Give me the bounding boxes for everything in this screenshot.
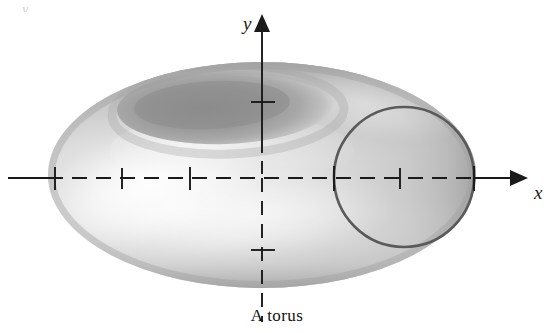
torus-body <box>28 48 480 290</box>
scan-artifact: y, <box>22 0 56 12</box>
x-axis-label: x <box>534 183 542 202</box>
figure-caption: A torus <box>0 306 554 326</box>
torus-figure: y, y x A torus <box>0 0 554 333</box>
torus-illustration <box>0 0 554 333</box>
y-axis-arrowhead <box>254 14 270 32</box>
x-axis-arrowhead <box>510 170 528 186</box>
y-axis-label: y <box>243 14 251 33</box>
scan-artifact-text: y, <box>22 2 31 12</box>
